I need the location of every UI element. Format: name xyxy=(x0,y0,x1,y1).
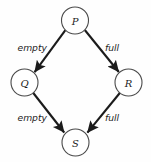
edge-label-p-to-r: full xyxy=(105,42,120,53)
node-r[interactable]: R xyxy=(115,69,142,96)
edge-label-p-to-q: empty xyxy=(18,42,48,53)
edge-label-r-to-s: full xyxy=(105,112,120,123)
node-s-label: S xyxy=(72,138,79,149)
edge-label-q-to-s: empty xyxy=(18,112,48,123)
node-s[interactable]: S xyxy=(62,129,89,156)
node-r-label: R xyxy=(124,78,133,89)
node-p-label: P xyxy=(71,16,79,27)
state-transition-diagram: empty full empty full P Q R S xyxy=(0,0,151,162)
node-q[interactable]: Q xyxy=(11,69,38,96)
node-group: P Q R S xyxy=(11,7,142,156)
node-q-label: Q xyxy=(20,78,28,89)
node-p[interactable]: P xyxy=(62,7,89,34)
graph-canvas: empty full empty full P Q R S xyxy=(0,0,151,162)
